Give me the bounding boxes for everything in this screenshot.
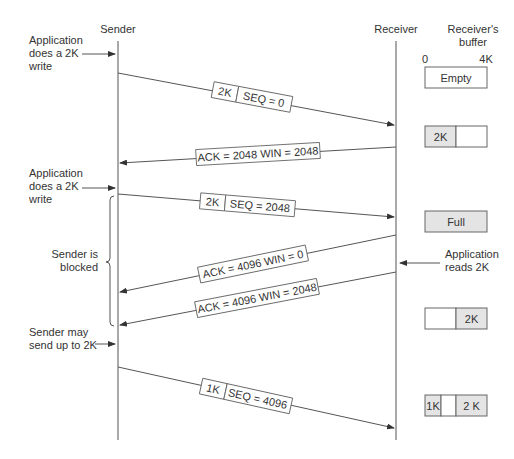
sender-label: Sender (100, 23, 136, 35)
svg-text:2K: 2K (465, 313, 479, 325)
svg-text:does a 2K: does a 2K (29, 47, 79, 59)
svg-text:write: write (28, 60, 52, 72)
svg-text:reads 2K: reads 2K (445, 261, 490, 273)
annotation-sender-may-send: Sender may send up to 2K (29, 326, 115, 351)
buffer-partial: 1K 2 K (425, 395, 487, 416)
buffer-half-left: 2K (425, 126, 487, 147)
svg-text:2 K: 2 K (463, 400, 480, 412)
annotation-app-reads: Application reads 2K (400, 248, 499, 273)
buffer-full: Full (425, 211, 487, 232)
receiver-label: Receiver (374, 23, 418, 35)
svg-text:2K: 2K (434, 131, 448, 143)
buffer-scale-max: 4K (479, 53, 493, 65)
buffer-empty: Empty (425, 67, 487, 88)
message-seq-4096: 1K SEQ = 4096 (118, 367, 394, 428)
buffer-scale-min: 0 (422, 53, 428, 65)
brace-icon (106, 196, 114, 326)
svg-text:Sender may: Sender may (29, 326, 89, 338)
svg-text:Full: Full (447, 216, 465, 228)
message-ack-4096-win-0: ACK = 4096 WIN = 0 (120, 235, 396, 292)
buffer-half-right: 2K (425, 308, 487, 329)
svg-text:does a 2K: does a 2K (29, 180, 79, 192)
buffer-title-line1: Receiver's (447, 23, 499, 35)
svg-text:send up to 2K: send up to 2K (29, 339, 98, 351)
annotation-app-write-1: Application does a 2K write (28, 34, 115, 72)
svg-text:write: write (28, 193, 52, 205)
annotation-app-write-2: Application does a 2K write (28, 167, 115, 205)
tcp-window-diagram: Sender Receiver Receiver's buffer 0 4K A… (0, 0, 514, 459)
svg-text:Application: Application (29, 167, 83, 179)
buffer-title-line2: buffer (459, 36, 487, 48)
svg-text:Empty: Empty (440, 72, 472, 84)
svg-text:Sender is: Sender is (52, 248, 99, 260)
svg-text:blocked: blocked (60, 261, 98, 273)
svg-text:2K: 2K (205, 195, 220, 208)
svg-text:Application: Application (29, 34, 83, 46)
message-seq-2048: 2K SEQ = 2048 (118, 193, 394, 217)
message-ack-4096-win-2048: ACK = 4096 WIN = 2048 (120, 272, 396, 325)
message-seq-0: 2K SEQ = 0 (118, 73, 394, 125)
annotation-sender-blocked: Sender is blocked (52, 196, 114, 326)
svg-text:Application: Application (445, 248, 499, 260)
svg-text:1K: 1K (426, 400, 440, 412)
message-ack-2048-win-2048: ACK = 2048 WIN = 2048 (120, 142, 396, 165)
